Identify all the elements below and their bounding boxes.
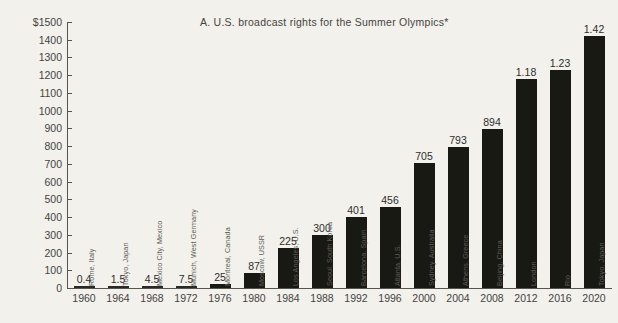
x-tick-label: 2000	[412, 292, 435, 304]
y-tick-label: 800	[0, 140, 62, 152]
y-tick	[68, 199, 72, 200]
x-tick-label: 1980	[242, 292, 265, 304]
x-tick-label: 1976	[208, 292, 231, 304]
city-label: London	[529, 261, 538, 286]
bar	[176, 286, 197, 288]
x-tick-label: 1968	[140, 292, 163, 304]
y-tick-label: 700	[0, 158, 62, 170]
bar-value-label: 456	[381, 194, 399, 206]
city-label: Atlanta, U.S.	[393, 244, 402, 286]
x-axis-labels: 1960196419681972197619801984198819921996…	[67, 292, 611, 312]
y-tick-label: 100	[0, 264, 62, 276]
bar	[108, 286, 129, 288]
y-tick	[68, 146, 72, 147]
x-tick-label: 1972	[174, 292, 197, 304]
y-tick	[68, 270, 72, 271]
city-label: Tokyo, Japan	[597, 242, 606, 286]
x-tick-label: 2008	[480, 292, 503, 304]
city-label: Los Angeles, U.S.	[291, 227, 300, 286]
bar-value-label: 705	[415, 150, 433, 162]
x-tick-label: 2016	[548, 292, 571, 304]
city-label: Munich, West Germany	[189, 209, 198, 286]
city-label: Tokyo, Japan	[121, 242, 130, 286]
city-label: Seoul, South Korea	[325, 222, 334, 286]
x-tick-label: 1960	[72, 292, 95, 304]
x-tick-label: 2004	[446, 292, 469, 304]
y-tick-label: 1000	[0, 105, 62, 117]
bar	[550, 70, 571, 288]
bar-value-label: 401	[347, 204, 365, 216]
x-tick-label: 2012	[514, 292, 537, 304]
x-tick-label: 2020	[582, 292, 605, 304]
city-label: Athens, Greece	[461, 235, 470, 286]
y-tick-label: 500	[0, 193, 62, 205]
y-tick	[68, 57, 72, 58]
y-tick	[68, 75, 72, 76]
y-tick-label: 1100	[0, 87, 62, 99]
y-tick-label: 200	[0, 247, 62, 259]
y-axis-line	[67, 22, 68, 289]
city-label: Sydney, Australia	[427, 229, 436, 286]
y-tick-label: 0	[0, 282, 62, 294]
city-label: Rome, Italy	[87, 249, 96, 286]
y-tick	[68, 22, 72, 23]
city-label: Barcelona, Spain	[359, 230, 368, 286]
bar-value-label: 1.23	[550, 57, 570, 69]
y-tick	[68, 40, 72, 41]
y-tick-label: 1400	[0, 34, 62, 46]
plot-area: 0.4Rome, Italy1.5Tokyo, Japan4.5Mexico C…	[67, 22, 611, 288]
y-tick	[68, 253, 72, 254]
city-label: Moscow, USSR	[257, 235, 266, 286]
x-tick-label: 1984	[276, 292, 299, 304]
y-tick-label: 300	[0, 229, 62, 241]
y-tick-label: 400	[0, 211, 62, 223]
y-tick-label: 600	[0, 176, 62, 188]
y-tick	[68, 217, 72, 218]
x-tick-label: 1964	[106, 292, 129, 304]
y-tick	[68, 288, 72, 289]
y-tick	[68, 93, 72, 94]
y-tick-label: 1200	[0, 69, 62, 81]
bar-value-label: 1.42	[584, 23, 604, 35]
y-axis-labels: $150014001300120011001000900800700600500…	[0, 22, 62, 288]
y-tick-label: $1500	[0, 16, 62, 28]
y-tick	[68, 182, 72, 183]
city-label: Rio	[563, 275, 572, 286]
city-label: Montreal, Canada	[223, 227, 232, 286]
y-tick	[68, 111, 72, 112]
bar	[142, 286, 163, 288]
bar-value-label: 1.18	[516, 66, 536, 78]
y-tick-label: 900	[0, 122, 62, 134]
x-tick-label: 1988	[310, 292, 333, 304]
y-tick	[68, 235, 72, 236]
y-tick	[68, 164, 72, 165]
city-label: Beijing, China	[495, 240, 504, 286]
bar	[74, 286, 95, 288]
city-label: Mexico City, Mexico	[155, 221, 164, 286]
chart-root: A. U.S. broadcast rights for the Summer …	[0, 0, 618, 323]
bar	[516, 79, 537, 288]
x-axis-line	[67, 288, 612, 289]
bar-value-label: 894	[483, 116, 501, 128]
x-tick-label: 1992	[344, 292, 367, 304]
bar-value-label: 793	[449, 134, 467, 146]
y-tick	[68, 128, 72, 129]
y-tick-label: 1300	[0, 51, 62, 63]
x-tick-label: 1996	[378, 292, 401, 304]
